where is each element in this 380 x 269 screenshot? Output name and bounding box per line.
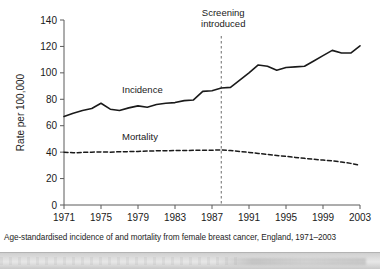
x-tick-label: 1971 (53, 212, 76, 223)
x-tick-label: 1983 (164, 212, 187, 223)
x-tick-label: 1987 (201, 212, 224, 223)
x-tick-label: 1999 (312, 212, 335, 223)
x-tick-label: 1979 (127, 212, 150, 223)
y-tick-label: 40 (46, 147, 58, 158)
x-tick-label: 1991 (238, 212, 261, 223)
axis-spines (64, 20, 360, 205)
page-edge-artifact (0, 252, 380, 269)
page-edge-smudge-left (0, 257, 240, 265)
x-axis: 197119751979198319871991199519992003 (53, 205, 372, 223)
line-chart: 0204060801001201401971197519791983198719… (0, 0, 380, 250)
incidence-series-label: Incidence (122, 84, 163, 95)
mortality-series-label: Mortality (122, 131, 158, 142)
y-axis: 020406080100120140 (40, 15, 64, 211)
x-tick-label: 2003 (349, 212, 372, 223)
y-tick-label: 120 (40, 41, 57, 52)
x-tick-label: 1995 (275, 212, 298, 223)
y-tick-label: 20 (46, 173, 58, 184)
screening-annotation-line2: introduced (201, 18, 245, 29)
y-tick-label: 140 (40, 15, 57, 26)
figure-caption: Age-standardised incidence of and mortal… (4, 233, 378, 242)
y-tick-label: 80 (46, 94, 58, 105)
y-axis-title: Rate per 100,000 (15, 73, 26, 151)
screening-annotation-line1: Screening (202, 7, 245, 18)
series-line-incidence (64, 46, 360, 117)
y-tick-label: 60 (46, 120, 58, 131)
series-line-mortality (64, 150, 360, 165)
figure-container: 0204060801001201401971197519791983198719… (0, 0, 380, 250)
y-tick-label: 0 (51, 200, 57, 211)
y-tick-label: 100 (40, 67, 57, 78)
x-tick-label: 1975 (90, 212, 113, 223)
